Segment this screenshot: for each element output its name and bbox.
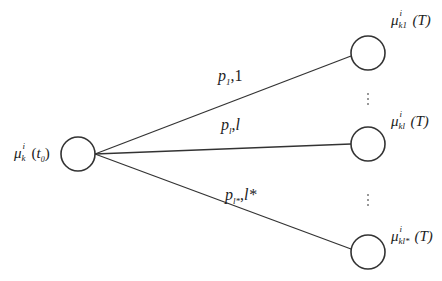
root-node bbox=[61, 137, 95, 171]
leaf-node-l-star bbox=[351, 235, 385, 269]
edge-l-star bbox=[95, 154, 351, 249]
edge-1-label: p1,1 bbox=[218, 68, 243, 87]
edge-l bbox=[95, 144, 351, 154]
leaf-node-l-star-label: μikl*(T) bbox=[391, 229, 433, 244]
leaf-node-l bbox=[351, 127, 385, 161]
root-node-label: μik(t0) bbox=[14, 146, 50, 164]
leaf-node-1-label: μik1(T) bbox=[391, 13, 431, 28]
leaf-node-l-label: μikl(T) bbox=[391, 114, 429, 129]
edge-l-star-label: pl*,l* bbox=[225, 187, 256, 206]
ellipsis-upper bbox=[367, 93, 369, 105]
leaf-node-1 bbox=[351, 36, 385, 70]
edge-l-label: pl,l bbox=[221, 117, 240, 136]
ellipsis-lower bbox=[367, 194, 369, 206]
diagram-canvas bbox=[0, 0, 442, 281]
